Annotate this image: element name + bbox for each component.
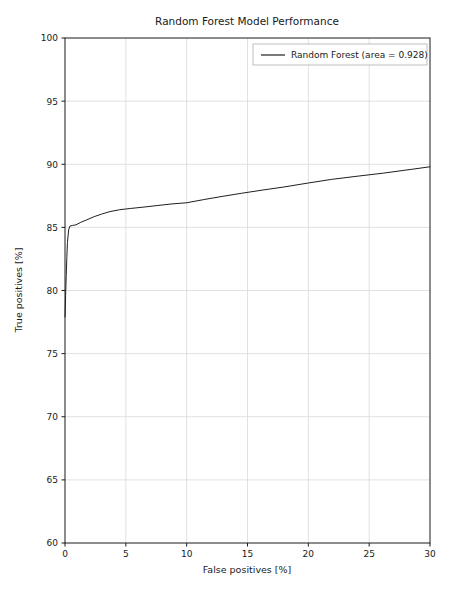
y-tick-label: 65 — [47, 475, 58, 485]
y-tick-label: 100 — [41, 33, 58, 43]
x-tick-label: 15 — [242, 549, 253, 559]
y-axis-title: True positives [%] — [13, 248, 24, 334]
legend-label: Random Forest (area = 0.928) — [291, 50, 428, 60]
x-tick-label: 25 — [363, 549, 374, 559]
chart-title: Random Forest Model Performance — [155, 15, 339, 27]
x-axis-title: False positives [%] — [203, 564, 292, 575]
y-tick-label: 85 — [47, 223, 58, 233]
x-tick-label: 5 — [123, 549, 129, 559]
y-tick-label: 90 — [47, 160, 59, 170]
figure-background — [0, 0, 457, 593]
roc-chart: 0510152025306065707580859095100 Random F… — [0, 0, 457, 593]
x-tick-label: 30 — [424, 549, 436, 559]
x-tick-label: 20 — [303, 549, 315, 559]
y-tick-label: 80 — [47, 286, 59, 296]
x-tick-label: 10 — [181, 549, 193, 559]
chart-figure: 0510152025306065707580859095100 Random F… — [0, 0, 457, 593]
y-tick-label: 70 — [47, 412, 59, 422]
legend[interactable]: Random Forest (area = 0.928) — [253, 44, 428, 65]
y-tick-label: 60 — [47, 538, 59, 548]
x-tick-label: 0 — [62, 549, 68, 559]
y-tick-label: 75 — [47, 349, 58, 359]
y-tick-label: 95 — [47, 97, 58, 107]
